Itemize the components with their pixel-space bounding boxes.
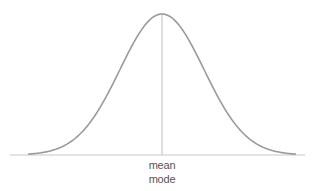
mean-label: mean — [132, 159, 192, 172]
mode-label: mode — [132, 173, 192, 186]
normal-distribution-diagram: mean mode — [0, 0, 315, 191]
